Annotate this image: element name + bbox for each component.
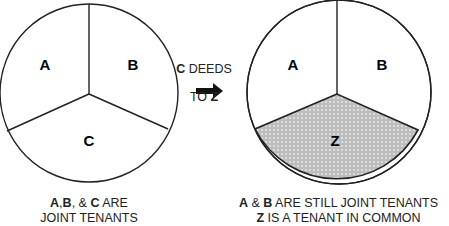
grantor-label: C — [176, 62, 185, 76]
grantee-label: Z — [210, 90, 218, 104]
segment-label-a-right: A — [288, 56, 299, 73]
segment-label-a-left: A — [40, 56, 51, 73]
caption-a: A — [239, 196, 248, 210]
transition-label: C DEEDS TO Z — [174, 62, 234, 104]
deeds-text: DEEDS — [185, 62, 232, 76]
left-caption: A,B, & C ARE JOINT TENANTS — [14, 196, 164, 226]
to-text: TO — [190, 90, 211, 104]
caption-line2: JOINT TENANTS — [14, 211, 164, 226]
left-pie-chart — [0, 4, 178, 182]
segment-label-b-left: B — [128, 56, 139, 73]
segment-label-z-right: Z — [330, 132, 339, 149]
caption-text: IS A TENANT IN COMMON — [264, 211, 421, 225]
caption-a: A — [50, 196, 59, 210]
caption-z: Z — [256, 211, 264, 225]
segment-label-b-right: B — [377, 56, 388, 73]
caption-b: B — [63, 196, 72, 210]
caption-sep: , & — [72, 196, 91, 210]
right-pie-chart — [247, 0, 431, 184]
right-caption: A & B ARE STILL JOINT TENANTS Z IS A TEN… — [228, 196, 449, 226]
caption-text: ARE — [99, 196, 128, 210]
caption-text: ARE STILL JOINT TENANTS — [272, 196, 438, 210]
caption-sep: & — [248, 196, 263, 210]
caption-b: B — [263, 196, 272, 210]
segment-label-c-left: C — [84, 132, 95, 149]
diagram-canvas: A B C A B Z — [0, 0, 449, 226]
